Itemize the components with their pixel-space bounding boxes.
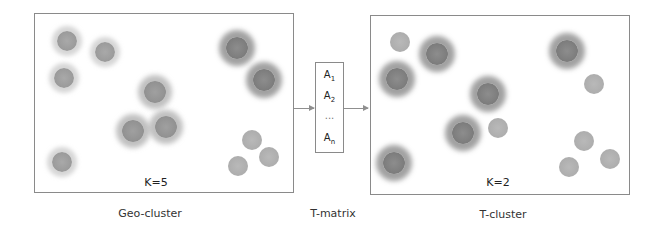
t-cluster-point-9 bbox=[584, 74, 604, 94]
t-cluster-point-7 bbox=[383, 152, 405, 174]
geo-cluster-point-10 bbox=[242, 130, 262, 150]
t-cluster-point-11 bbox=[600, 149, 620, 169]
t-cluster-point-6 bbox=[488, 118, 508, 138]
t-matrix-box: A1 A2 ... An bbox=[315, 62, 344, 153]
arrow-to-t-matrix bbox=[294, 108, 314, 109]
geo-cluster-point-1 bbox=[57, 31, 77, 51]
t-cluster-point-5 bbox=[452, 122, 474, 144]
arrow-to-t-cluster bbox=[344, 108, 368, 109]
geo-cluster-point-5 bbox=[122, 120, 144, 142]
t-matrix-item-an: An bbox=[316, 132, 343, 146]
t-cluster-point-8 bbox=[556, 40, 578, 62]
t-cluster-point-4 bbox=[477, 83, 499, 105]
geo-cluster-point-4 bbox=[144, 81, 166, 103]
t-cluster-point-12 bbox=[559, 157, 579, 177]
geo-cluster-point-6 bbox=[155, 116, 177, 138]
geo-cluster-point-8 bbox=[226, 37, 248, 59]
geo-cluster-point-12 bbox=[228, 156, 248, 176]
geo-cluster-point-11 bbox=[259, 147, 279, 167]
geo-cluster-k-label: K=5 bbox=[144, 176, 167, 189]
geo-cluster-point-7 bbox=[52, 152, 72, 172]
t-cluster-point-3 bbox=[386, 68, 408, 90]
t-matrix-ellipsis: ... bbox=[316, 110, 343, 121]
t-cluster-point-1 bbox=[390, 32, 410, 52]
t-cluster-caption: T-cluster bbox=[479, 208, 526, 221]
geo-cluster-point-2 bbox=[95, 42, 115, 62]
geo-cluster-caption: Geo-cluster bbox=[118, 207, 182, 220]
t-cluster-k-label: K=2 bbox=[486, 176, 509, 189]
t-cluster-point-10 bbox=[574, 131, 594, 151]
t-matrix-caption: T-matrix bbox=[310, 207, 356, 220]
geo-cluster-point-9 bbox=[253, 69, 275, 91]
t-cluster-point-2 bbox=[426, 43, 448, 65]
t-matrix-item-a2: A2 bbox=[316, 90, 343, 104]
t-matrix-item-a1: A1 bbox=[316, 69, 343, 83]
geo-cluster-point-3 bbox=[54, 68, 74, 88]
